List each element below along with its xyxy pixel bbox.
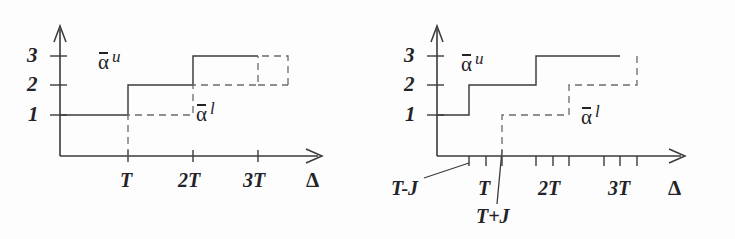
alpha-upper-symbol-left: α xyxy=(98,51,109,73)
alpha-upper-superscript-left: u xyxy=(112,47,121,66)
y-tick-label-1-left: 1 xyxy=(28,104,39,125)
chart-panel-left: 3 2 1 T 2T 3T Δ αu αl xyxy=(0,0,368,239)
left-chart-svg xyxy=(0,0,368,239)
y-tick-label-2-left: 2 xyxy=(27,74,38,95)
leader-T-plus-J-right xyxy=(497,150,502,204)
x-axis-name-left: Δ xyxy=(306,170,319,191)
alpha-upper-superscript-right: u xyxy=(475,49,484,68)
y-tick-label-3-right: 3 xyxy=(404,45,415,66)
alpha-lower-symbol-right: α xyxy=(581,106,592,128)
x-tick-label-3T-right: 3T xyxy=(608,178,630,198)
alpha-lower-superscript-left: l xyxy=(210,99,215,118)
x-tick-label-T-minus-J-right: T-J xyxy=(391,178,418,198)
x-tick-label-T-left: T xyxy=(120,170,132,190)
alpha-upper-label-right: αu xyxy=(461,50,484,75)
y-tick-label-3-left: 3 xyxy=(27,45,38,66)
leader-T-minus-J-right xyxy=(424,163,469,178)
x-callout-label-T-plus-J-right: T+J xyxy=(476,206,510,226)
chart-panel-right: 3 2 1 T-J T 2T 3T T+J Δ αu αl xyxy=(368,0,735,239)
y-tick-label-1-right: 1 xyxy=(405,104,416,125)
x-tick-label-2T-left: 2T xyxy=(178,170,200,190)
alpha-lower-label-left: αl xyxy=(196,100,215,125)
x-tick-label-T-right: T xyxy=(478,178,490,198)
alpha-upper-symbol-right: α xyxy=(461,53,472,75)
figure-root: 3 2 1 T 2T 3T Δ αu αl xyxy=(0,0,735,239)
alpha-lower-tail-top-left xyxy=(258,56,288,85)
alpha-lower-symbol-left: α xyxy=(196,103,207,125)
x-axis-name-right: Δ xyxy=(668,178,681,199)
alpha-upper-label-left: αu xyxy=(98,48,121,73)
x-tick-label-2T-right: 2T xyxy=(538,178,560,198)
x-tick-label-3T-left: 3T xyxy=(243,170,265,190)
alpha-lower-step-right xyxy=(502,56,637,156)
alpha-lower-label-right: αl xyxy=(581,103,600,128)
alpha-lower-superscript-right: l xyxy=(595,102,600,121)
right-chart-svg xyxy=(368,0,735,239)
y-tick-label-2-right: 2 xyxy=(404,74,415,95)
